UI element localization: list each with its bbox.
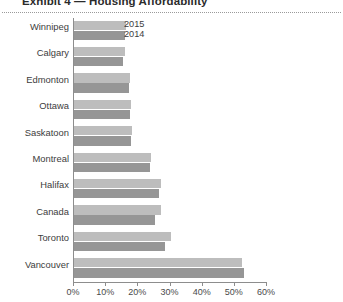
category-label-calgary: Calgary (1, 48, 69, 58)
bar-row: Vancouver (0, 256, 343, 282)
category-label-montreal: Montreal (1, 154, 69, 164)
bar-group (74, 47, 334, 68)
bar-row: Winnipeg (0, 18, 343, 44)
x-tick-label: 50% (225, 287, 243, 297)
bar-group (74, 153, 334, 174)
bar-2015-calgary (74, 47, 125, 56)
x-tick-label: 10% (96, 287, 114, 297)
bar-2014-winnipeg (74, 31, 125, 40)
x-tick-label: 0% (66, 287, 79, 297)
category-label-ottawa: Ottawa (1, 101, 69, 111)
housing-affordability-chart: Exhibit 4 — Housing Affordability Winnip… (0, 0, 343, 302)
x-tick-mark (137, 282, 138, 286)
x-tick-label: 20% (128, 287, 146, 297)
bar-row: Saskatoon (0, 124, 343, 150)
category-label-winnipeg: Winnipeg (1, 22, 69, 32)
bar-row: Halifax (0, 176, 343, 202)
bar-2015-edmonton (74, 73, 130, 82)
bar-2015-toronto (74, 232, 171, 241)
bar-rows: WinnipegCalgaryEdmontonOttawaSaskatoonMo… (0, 18, 343, 282)
x-tick-mark (234, 282, 235, 286)
bar-2015-saskatoon (74, 126, 132, 135)
category-label-vancouver: Vancouver (1, 260, 69, 270)
category-label-canada: Canada (1, 207, 69, 217)
title-divider (2, 12, 341, 13)
plot-area: WinnipegCalgaryEdmontonOttawaSaskatoonMo… (0, 18, 343, 302)
x-tick-mark (105, 282, 106, 286)
chart-title: Exhibit 4 — Housing Affordability (22, 0, 208, 7)
bar-group (74, 100, 334, 121)
bar-2015-winnipeg (74, 21, 126, 30)
bar-row: Toronto (0, 229, 343, 255)
x-tick-label: 30% (160, 287, 178, 297)
bar-row: Calgary (0, 44, 343, 70)
bar-2014-saskatoon (74, 136, 131, 145)
bar-row: Montreal (0, 150, 343, 176)
bar-2014-vancouver (74, 268, 244, 277)
bar-2014-halifax (74, 189, 159, 198)
x-tick-label: 60% (257, 287, 275, 297)
bar-group (74, 232, 334, 253)
bar-2015-halifax (74, 179, 161, 188)
category-label-halifax: Halifax (1, 180, 69, 190)
bar-2014-toronto (74, 242, 165, 251)
bar-2014-calgary (74, 57, 123, 66)
bar-group (74, 258, 334, 279)
bar-2014-canada (74, 215, 155, 224)
bar-group (74, 21, 334, 42)
bar-group (74, 179, 334, 200)
bar-2014-ottawa (74, 110, 130, 119)
x-axis-ticks: 0%10%20%30%40%50%60% (0, 282, 343, 302)
bar-row: Canada (0, 203, 343, 229)
bar-2014-montreal (74, 163, 150, 172)
bar-row: Edmonton (0, 71, 343, 97)
x-tick-label: 40% (193, 287, 211, 297)
x-tick-mark (266, 282, 267, 286)
bar-2015-ottawa (74, 100, 131, 109)
category-label-edmonton: Edmonton (1, 75, 69, 85)
bar-2015-canada (74, 205, 161, 214)
bar-group (74, 205, 334, 226)
bar-2014-edmonton (74, 83, 129, 92)
bar-2015-vancouver (74, 258, 242, 267)
category-label-toronto: Toronto (1, 233, 69, 243)
x-tick-mark (73, 282, 74, 286)
x-tick-mark (170, 282, 171, 286)
x-tick-mark (202, 282, 203, 286)
bar-row: Ottawa (0, 97, 343, 123)
bar-group (74, 73, 334, 94)
category-label-saskatoon: Saskatoon (1, 128, 69, 138)
bar-2015-montreal (74, 153, 151, 162)
bar-group (74, 126, 334, 147)
